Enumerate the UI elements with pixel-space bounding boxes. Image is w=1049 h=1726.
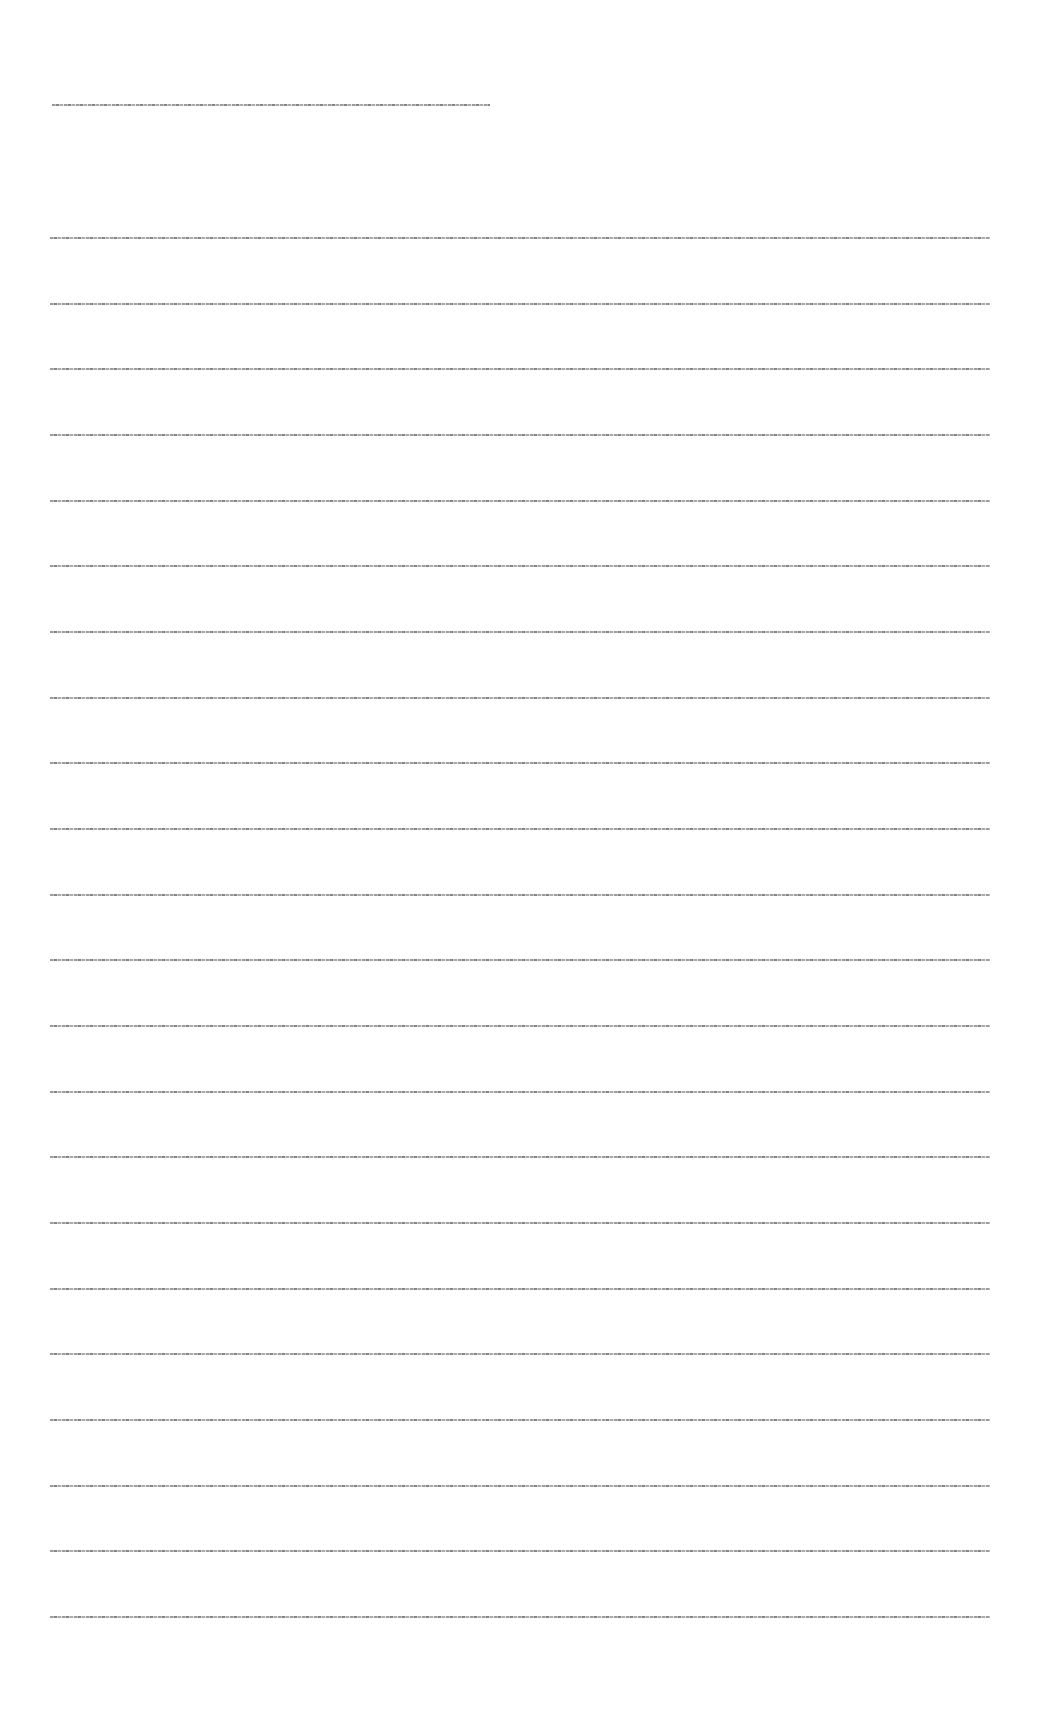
- document-body-line: [50, 959, 990, 961]
- document-body-line-text: [50, 828, 51, 829]
- document-body-line: [50, 1550, 990, 1552]
- document-body-line: [50, 434, 990, 436]
- document-body-line-text: [50, 1353, 51, 1354]
- document-body-line: [50, 1353, 990, 1355]
- document-body-line-text: [50, 1288, 51, 1289]
- document-body-line: [50, 1091, 990, 1093]
- document-body-line-text: [50, 762, 51, 763]
- document-body-line: [50, 894, 990, 896]
- document-body-line-text: [50, 894, 51, 895]
- document-body-line: [50, 697, 990, 699]
- document-body-line: [50, 1288, 990, 1290]
- document-body-line: [50, 1419, 990, 1421]
- document-body-line: [50, 1222, 990, 1224]
- document-body-line: [50, 565, 990, 567]
- document-body-line-text: [50, 565, 51, 566]
- document-body-line: [50, 1616, 990, 1618]
- document-title-line: [52, 104, 490, 106]
- document-body-line-text: [50, 697, 51, 698]
- document-body-line-text: [50, 1485, 51, 1486]
- document-body-line-text: [50, 1222, 51, 1223]
- document-body-line: [50, 1156, 990, 1158]
- document-body-line: [50, 828, 990, 830]
- document-body-line: [50, 368, 990, 370]
- document-body-line: [50, 631, 990, 633]
- document-body-line: [50, 762, 990, 764]
- document-body-line-text: [50, 1550, 51, 1551]
- document-body-line-text: [50, 1156, 51, 1157]
- document-body-line-text: [50, 631, 51, 632]
- document-title-text: [52, 104, 53, 105]
- document-body-line-text: [50, 434, 51, 435]
- document-body-line-text: [50, 959, 51, 960]
- document-body-line: [50, 1025, 990, 1027]
- document-body-line-text: [50, 368, 51, 369]
- document-body-line-text: [50, 1419, 51, 1420]
- document-body-line: [50, 1485, 990, 1487]
- document-body-line: [50, 500, 990, 502]
- document-body-line: [50, 237, 990, 239]
- document-body-line-text: [50, 1616, 51, 1617]
- document-body-line-text: [50, 500, 51, 501]
- document-body-line: [50, 303, 990, 305]
- document-page: [0, 0, 1049, 1726]
- document-body-line-text: [50, 237, 51, 238]
- document-body-line-text: [50, 1025, 51, 1026]
- document-body-line-text: [50, 303, 51, 304]
- document-body-line-text: [50, 1091, 51, 1092]
